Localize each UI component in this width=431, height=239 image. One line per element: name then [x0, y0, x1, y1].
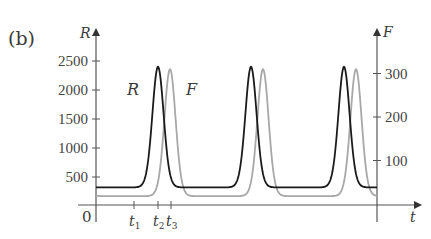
right-axis-label: F [382, 24, 394, 40]
right-axis-ticks: 100200300 [373, 66, 408, 169]
panel-label: (b) [8, 27, 35, 49]
x-axis-label: t [410, 209, 416, 225]
x-tick-label: t3 [166, 213, 178, 231]
axes [78, 32, 418, 222]
left-tick-label: 2500 [58, 53, 88, 69]
origin-label: 0 [82, 208, 92, 226]
right-tick-label: 100 [385, 153, 408, 169]
right-tick-label: 300 [385, 66, 408, 82]
left-tick-label: 2000 [58, 82, 88, 98]
x-tick-label: t2 [153, 213, 164, 231]
left-axis-ticks: 5001000150020002500 [58, 53, 100, 185]
predator-prey-chart: (b) R F t 0 5001000150020002500 10020030… [0, 0, 431, 239]
x-tick-label: t1 [129, 213, 140, 231]
left-axis-label: R [79, 25, 91, 41]
left-tick-label: 1000 [58, 140, 88, 156]
right-tick-label: 200 [385, 109, 408, 125]
series-f-label: F [185, 80, 198, 99]
left-tick-label: 500 [66, 169, 89, 185]
series-r-label: R [126, 80, 139, 99]
left-tick-label: 1500 [58, 111, 88, 127]
